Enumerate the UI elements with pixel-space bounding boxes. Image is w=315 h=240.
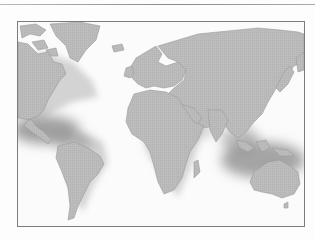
south-america (56, 142, 104, 220)
world-map (17, 21, 305, 227)
tasmania (284, 202, 288, 208)
iceland (112, 44, 124, 52)
top-divider (0, 4, 315, 5)
madagascar (194, 160, 200, 178)
